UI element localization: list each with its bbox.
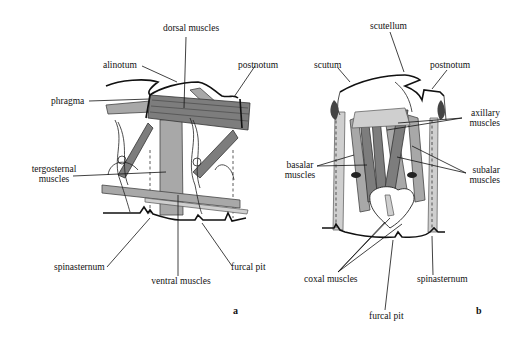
label-postnotum-b: postnotum [430, 60, 470, 70]
label-subalar-muscles: subalar muscles [466, 165, 500, 185]
label-alinotum: alinotum [103, 60, 137, 70]
panel-b-drawing [322, 75, 446, 237]
phragma [106, 101, 152, 114]
label-furcal-pit-a: furcal pit [231, 262, 266, 272]
label-tergosternal-line1: tergosternal [24, 164, 84, 174]
diagonal-muscle-left [118, 123, 153, 178]
panel-a-drawing [102, 80, 250, 221]
label-subalar-line1: subalar [466, 165, 500, 175]
label-phragma: phragma [51, 96, 84, 106]
label-subalar-line2: muscles [466, 175, 500, 185]
label-furcal-pit-b: furcal pit [369, 311, 404, 321]
panel-label-a: a [233, 305, 238, 316]
label-coxal-muscles: coxal muscles [304, 274, 358, 284]
label-axillary-muscles: axillary muscles [462, 108, 500, 128]
label-tergosternal-muscles: tergosternal muscles [24, 164, 84, 184]
label-basalar-line2: muscles [281, 170, 319, 180]
label-axillary-line1: axillary [462, 108, 500, 118]
label-ventral-muscles: ventral muscles [146, 276, 216, 286]
label-basalar-line1: basalar [281, 160, 319, 170]
panel-label-b: b [476, 305, 482, 316]
label-spinasternum-b: spinasternum [417, 274, 468, 284]
leader-lines [73, 32, 466, 310]
label-tergosternal-line2: muscles [24, 174, 84, 184]
label-axillary-line2: muscles [462, 118, 500, 128]
label-basalar-muscles: basalar muscles [281, 160, 319, 180]
label-postnotum-a: postnotum [238, 60, 278, 70]
label-scutum: scutum [314, 60, 341, 70]
subalar-muscle [408, 115, 425, 202]
scutum-outline [340, 75, 444, 100]
label-dorsal-muscles: dorsal muscles [150, 23, 232, 33]
label-spinasternum-a: spinasternum [54, 262, 105, 272]
label-scutellum: scutellum [370, 21, 407, 31]
